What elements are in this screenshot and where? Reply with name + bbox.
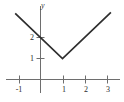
graph-figure: y -1 1 2 3 1 2	[0, 0, 124, 102]
x-tick-label-3: 3	[101, 86, 115, 94]
y-tick-label-2: 2	[22, 34, 34, 42]
y-tick-label-1: 1	[22, 55, 34, 63]
x-tick-label-2: 2	[79, 86, 93, 94]
x-tick-label-neg1: -1	[12, 86, 26, 94]
y-axis-name-label: y	[41, 2, 45, 10]
x-tick-label-1: 1	[57, 86, 71, 94]
